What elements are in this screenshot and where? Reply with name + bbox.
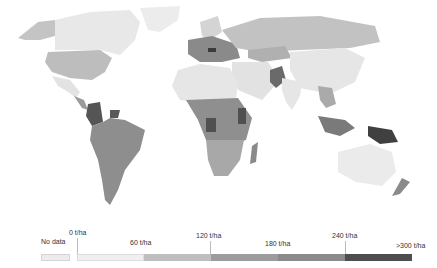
legend-bin-0-60 — [77, 254, 144, 261]
world-map — [0, 0, 437, 220]
region-kenya — [238, 108, 246, 124]
region-southern-africa — [206, 140, 244, 176]
region-usa — [45, 50, 112, 80]
legend-tick-label-300: >300 t/ha — [396, 242, 425, 249]
region-colombia — [86, 102, 103, 126]
region-australia — [338, 144, 396, 186]
legend-bin-60-120 — [144, 254, 211, 261]
legend-tick-label-180: 180 t/ha — [265, 240, 290, 247]
region-greenland — [140, 6, 180, 32]
region-europe-dark — [208, 48, 216, 52]
legend-tick — [345, 241, 346, 254]
region-papua-new-guinea — [368, 126, 398, 144]
legend-tick-label-60: 60 t/ha — [130, 239, 151, 246]
region-new-zealand — [392, 178, 410, 196]
region-mexico — [52, 76, 80, 98]
legend-tick — [210, 241, 211, 254]
legend-tick-label-120: 120 t/ha — [196, 232, 221, 239]
legend-no-data-label: No data — [41, 238, 66, 245]
region-madagascar — [250, 142, 258, 164]
legend-tick-label-240: 240 t/ha — [332, 232, 357, 239]
legend-tick-label-0: 0 t/ha — [69, 229, 87, 236]
region-north-africa — [172, 64, 238, 104]
legend-bin-180-240 — [278, 254, 345, 261]
region-alaska — [18, 20, 55, 40]
region-indonesia — [318, 116, 355, 136]
region-canada — [55, 10, 140, 55]
region-russia — [222, 16, 380, 52]
legend-tick — [77, 238, 78, 254]
region-guianas — [110, 110, 120, 118]
legend-no-data-swatch — [41, 254, 70, 261]
region-india — [282, 78, 302, 110]
legend-bin-240-300 — [345, 254, 412, 261]
region-south-america — [90, 118, 145, 205]
region-central-america — [74, 96, 88, 110]
legend-bin-120-180 — [211, 254, 278, 261]
region-congo — [206, 118, 216, 132]
